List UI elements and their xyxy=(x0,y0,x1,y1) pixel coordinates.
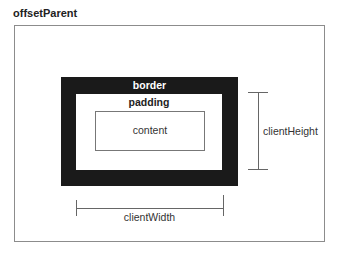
offset-parent-title: offsetParent xyxy=(13,7,77,19)
client-width-line xyxy=(76,208,223,209)
client-height-label: clientHeight xyxy=(263,125,318,137)
client-height-bottom-tick xyxy=(248,169,268,170)
client-height-line xyxy=(258,92,259,170)
client-width-right-tick xyxy=(223,195,224,216)
padding-label: padding xyxy=(76,96,222,108)
client-width-label: clientWidth xyxy=(76,211,223,223)
content-label: content xyxy=(95,124,205,136)
border-label: border xyxy=(61,79,238,91)
client-height-top-tick xyxy=(248,92,268,93)
